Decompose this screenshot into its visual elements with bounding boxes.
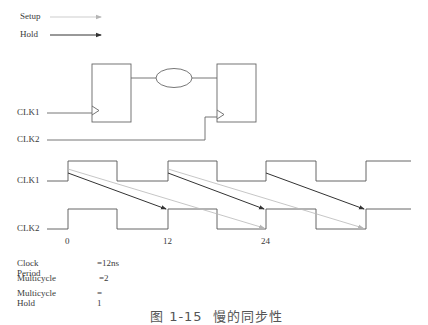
combinational-logic	[156, 69, 192, 88]
launch-flip-flop	[92, 64, 131, 122]
capture-clock-triangle-icon	[217, 110, 224, 119]
figure-caption: 图 1-15 慢的同步性	[150, 306, 283, 325]
tick-label-0: 0	[65, 237, 70, 246]
setup-arrows	[68, 169, 363, 228]
hold-arrows	[68, 173, 364, 209]
param-value: =2	[99, 273, 109, 283]
clk2-wire	[47, 117, 217, 140]
schematic	[47, 64, 256, 140]
tick-label-12: 12	[163, 237, 172, 246]
param-key: Multicycle	[17, 273, 56, 283]
param-value: =12ns	[97, 258, 119, 268]
schematic-clk2-label: CLK2	[17, 135, 40, 144]
tick-label-24: 24	[261, 237, 270, 246]
schematic-clk1-label: CLK1	[17, 108, 40, 117]
waveform-clk1-label: CLK1	[17, 176, 40, 185]
clk1-waveform	[47, 161, 411, 181]
param-value: = 1	[97, 288, 102, 308]
param-key: Multicycle Hold	[17, 288, 56, 308]
legend-setup-label: Setup	[20, 12, 41, 21]
legend-hold-label: Hold	[20, 30, 38, 39]
launch-clock-triangle-icon	[92, 106, 99, 115]
waveform-clk2-label: CLK2	[17, 224, 40, 233]
